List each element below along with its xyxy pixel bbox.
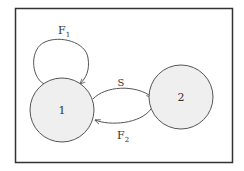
edge-s bbox=[93, 88, 152, 99]
node-1-label: 1 bbox=[59, 104, 66, 117]
edge-label-s: S bbox=[118, 77, 125, 88]
edge-label-f2: F2 bbox=[117, 129, 129, 144]
edge-label-f1: F1 bbox=[58, 24, 70, 39]
state-diagram: 1 2 F1 S F2 bbox=[0, 0, 244, 171]
edge-self-loop-f1 bbox=[34, 39, 89, 84]
edge-f2 bbox=[95, 109, 151, 123]
node-2-label: 2 bbox=[178, 91, 185, 104]
